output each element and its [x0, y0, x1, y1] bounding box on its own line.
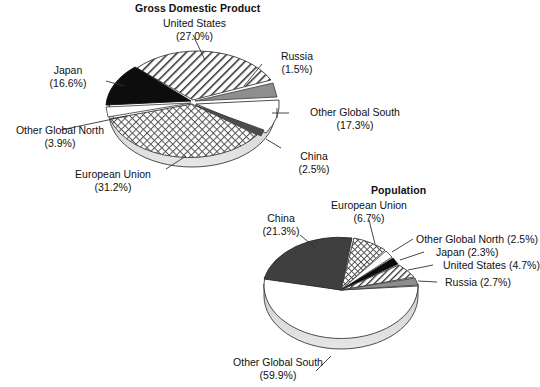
population-label-other-global-south-name: Other Global South: [233, 356, 323, 368]
population-label-european-union: European Union (6.7%): [318, 199, 420, 224]
gdp-label-china: China (2.5%): [283, 150, 345, 175]
gdp-label-other-global-south: Other Global South (17.3%): [290, 106, 420, 131]
gdp-label-other-global-south-pct: (17.3%): [290, 119, 420, 132]
population-pie: [264, 220, 437, 371]
gdp-label-russia: Russia (1.5%): [264, 50, 330, 75]
gdp-label-other-global-north-name: Other Global North: [16, 124, 104, 136]
gdp-label-other-global-north: Other Global North (3.9%): [0, 124, 120, 149]
gdp-label-european-union-name: European Union: [75, 168, 151, 180]
gdp-label-japan-name: Japan: [54, 64, 83, 76]
population-label-european-union-pct: (6.7%): [318, 212, 420, 225]
gdp-label-other-global-south-name: Other Global South: [310, 106, 400, 118]
population-label-other-global-north: Other Global North (2.5%): [416, 233, 538, 246]
gdp-chart-title: Gross Domestic Product: [135, 2, 260, 14]
gdp-label-china-pct: (2.5%): [283, 163, 345, 176]
population-chart-title: Population: [371, 184, 426, 196]
population-label-china-pct: (21.3%): [246, 225, 316, 238]
gdp-label-china-name: China: [300, 150, 327, 162]
gdp-label-other-global-north-pct: (3.9%): [0, 137, 120, 150]
population-label-russia: Russia (2.7%): [445, 276, 511, 289]
gdp-label-united-states: United States (27.0%): [122, 17, 267, 42]
gdp-label-european-union-pct: (31.2%): [61, 181, 165, 194]
population-label-japan: Japan (2.3%): [436, 246, 498, 259]
population-label-china: China (21.3%): [246, 212, 316, 237]
gdp-label-japan: Japan (16.6%): [31, 64, 105, 89]
population-label-china-name: China: [267, 212, 294, 224]
gdp-label-russia-name: Russia: [281, 50, 313, 62]
population-label-european-union-name: European Union: [331, 199, 407, 211]
population-label-other-global-south: Other Global South (59.9%): [216, 356, 340, 381]
gdp-label-united-states-pct: (27.0%): [122, 30, 267, 43]
population-label-united-states: United States (4.7%): [443, 259, 540, 272]
gdp-label-russia-pct: (1.5%): [264, 63, 330, 76]
gdp-label-japan-pct: (16.6%): [31, 77, 105, 90]
gdp-label-united-states-name: United States: [163, 17, 226, 29]
population-label-other-global-south-pct: (59.9%): [216, 369, 340, 382]
gdp-label-european-union: European Union (31.2%): [61, 168, 165, 193]
